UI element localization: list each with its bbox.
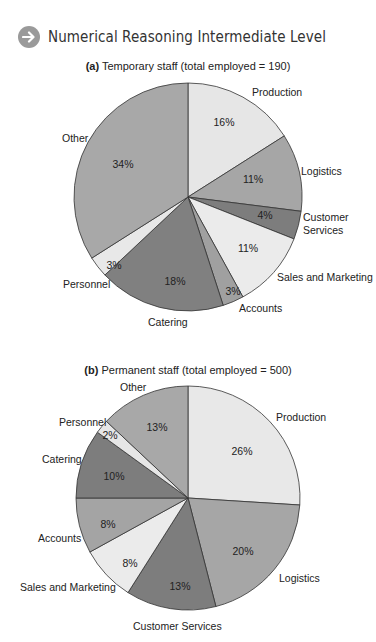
label-sales-marketing: Sales and Marketing: [20, 581, 116, 593]
label-accounts: Accounts: [38, 532, 81, 544]
label-customer-services: Customer Services: [133, 620, 222, 632]
label-production: Production: [276, 411, 326, 423]
pie-chart-permanent-staff: 26% 20% 13% 8% 8% 10% 2% 13% Production …: [0, 0, 376, 642]
pct-personnel: 2%: [102, 429, 117, 441]
pct-production: 26%: [231, 445, 252, 457]
pct-other: 13%: [146, 421, 167, 433]
label-other: Other: [120, 381, 147, 393]
label-personnel: Personnel: [59, 416, 106, 428]
pct-sales-marketing: 8%: [122, 557, 137, 569]
pct-customer-services: 13%: [169, 580, 190, 592]
pct-accounts: 8%: [100, 518, 115, 530]
label-catering: Catering: [42, 453, 82, 465]
label-logistics: Logistics: [279, 572, 320, 584]
pct-logistics: 20%: [232, 545, 253, 557]
pct-catering: 10%: [103, 470, 124, 482]
